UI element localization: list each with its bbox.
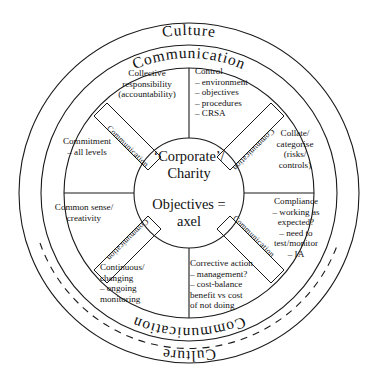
sector-text-line: – need to [256, 228, 336, 239]
sector-text-line: Common sense/ [38, 202, 130, 213]
hub-line-2: Charity [119, 165, 259, 182]
hub-line-3: Objectives = [119, 196, 259, 213]
sector-text-line: expected? [256, 217, 336, 228]
sector-text-line: Control [195, 66, 287, 77]
governance-wheel-diagram: Culture Communication Culture Communicat… [0, 0, 378, 386]
sector-text-line: – management? [190, 269, 290, 280]
sector-text-line: Corrective action [190, 258, 290, 269]
sector-text-line: changing [100, 273, 190, 284]
sector-common-sense: Common sense/creativity [38, 202, 130, 223]
sector-text-line: (risks/ [258, 149, 332, 160]
wheel-graphic: Culture Communication Culture Communicat… [0, 0, 378, 386]
sector-collate-categorise: Collate/categorise(risks/controls) [258, 128, 332, 170]
culture-label-top: Culture [161, 21, 217, 40]
sector-text-line: – ongoing [100, 283, 190, 294]
sector-text-line: – working as [256, 207, 336, 218]
sector-text-line: controls) [258, 160, 332, 171]
culture-label-bottom: Culture [161, 346, 217, 365]
sector-text-line: test/monitor [256, 238, 336, 249]
sector-text-line: – objectives [195, 87, 287, 98]
sector-text-line: responsibility [104, 79, 190, 90]
sector-text-line: Compliance [256, 196, 336, 207]
sector-continuous-changing: Continuous/changing– ongoingmonitoring [100, 262, 190, 304]
sector-text-line: (accountability) [104, 89, 190, 100]
hub-objectives-label: Objectives = axel [119, 196, 259, 231]
sector-text-line: creativity [38, 213, 130, 224]
sector-text-line: – cost-balance [190, 279, 290, 290]
hub-line-4: axel [119, 213, 259, 230]
sector-control: Control– environment– objectives– proced… [195, 66, 287, 119]
sector-text-line: Collective [104, 68, 190, 79]
hub-entity-label: ‘Corporate’/ Charity [119, 148, 259, 183]
sector-text-line: – CRSA [195, 108, 287, 119]
sector-text-line: – environment [195, 77, 287, 88]
sector-corrective-action: Corrective action– management?– cost-bal… [190, 258, 290, 311]
sector-commitment: Commitment– all levels [40, 136, 134, 157]
sector-text-line: – procedures [195, 98, 287, 109]
sector-collective-responsibility: Collectiveresponsibility(accountability) [104, 68, 190, 100]
sector-text-line: – all levels [40, 147, 134, 158]
sector-text-line: Continuous/ [100, 262, 190, 273]
sector-text-line: Collate/ [258, 128, 332, 139]
hub-line-1: ‘Corporate’/ [119, 148, 259, 165]
sector-compliance: Compliance– working asexpected?– need to… [256, 196, 336, 259]
sector-text-line: categorise [258, 139, 332, 150]
sector-text-line: Commitment [40, 136, 134, 147]
sector-text-line: monitoring [100, 294, 190, 305]
sector-text-line: benefit vs cost [190, 290, 290, 301]
sector-text-line: of not doing [190, 300, 290, 311]
